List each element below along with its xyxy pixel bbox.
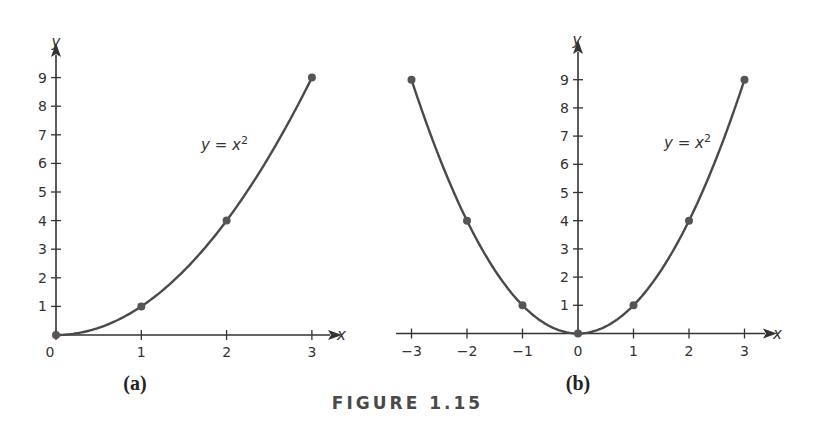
data-point [685,217,693,225]
data-point [519,301,527,309]
data-point [630,301,638,309]
x-tick-label: −2 [457,343,478,359]
x-tick-label: 2 [685,343,694,359]
y-tick-label: 1 [560,297,569,313]
y-tick-label: 7 [560,128,569,144]
data-point [741,76,749,84]
y-tick-label: 2 [560,269,569,285]
y-tick-label: 4 [560,213,569,229]
y-tick-label: 8 [560,100,569,116]
x-axis-label: x [772,325,782,343]
y-tick-label: 9 [560,72,569,88]
x-tick-label: −1 [512,343,533,359]
y-axis-label: y [572,31,583,49]
data-point [408,76,416,84]
y-tick-label: 5 [560,185,569,201]
figure-caption: FIGURE 1.15 [0,393,815,413]
equation-label: y = x2 [663,132,711,152]
x-tick-label: 0 [574,343,583,359]
x-tick-label: 3 [740,343,749,359]
panel-label: (b) [566,372,590,395]
y-tick-label: 6 [560,156,569,172]
y-tick-label: 3 [560,241,569,257]
data-point [574,330,582,338]
figure: xy0123123456789y = x2(a) xy−3−2−10123123… [0,0,815,430]
x-tick-label: −3 [401,343,422,359]
data-point [463,217,471,225]
x-tick-label: 1 [629,343,638,359]
chart-panel-b: xy−3−2−10123123456789y = x2(b) [0,0,815,430]
